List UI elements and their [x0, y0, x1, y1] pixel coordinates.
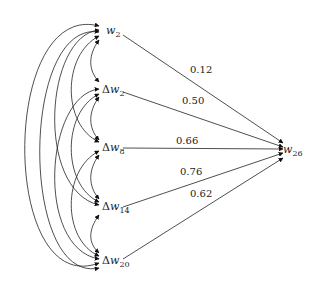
- node-prefix: Δ: [102, 141, 110, 154]
- edge-dw8-w26: [123, 148, 283, 149]
- node-sub: 20: [119, 260, 129, 269]
- weight-label-dw2: 0.50: [182, 95, 204, 106]
- node-w2: w2: [106, 24, 121, 39]
- node-var: w: [110, 254, 119, 267]
- node-sub: 14: [119, 206, 129, 215]
- graph-canvas: [0, 0, 313, 295]
- arc-w2-dw20-inner: [40, 32, 99, 269]
- node-prefix: Δ: [102, 83, 110, 96]
- node-dw14: Δw14: [102, 200, 130, 215]
- node-var: w: [110, 200, 119, 213]
- node-dw20: Δw20: [102, 254, 130, 269]
- node-w26: w26: [283, 143, 303, 158]
- node-prefix: Δ: [102, 254, 110, 267]
- edge-w2-w26: [123, 35, 283, 143]
- node-dw8: Δw8: [102, 141, 124, 156]
- arc-dw2-dw14: [71, 94, 99, 202]
- node-sub: 2: [115, 30, 120, 39]
- node-var: w: [106, 24, 115, 37]
- arc-w2-dw8: [71, 36, 99, 142]
- node-sub: 26: [292, 149, 302, 158]
- node-prefix: Δ: [102, 200, 110, 213]
- weight-label-dw14: 0.76: [180, 166, 202, 177]
- arc-dw8-dw14: [91, 155, 99, 199]
- arc-w2-dw20: [25, 24, 99, 266]
- arc-dw2-dw8: [91, 97, 99, 140]
- arc-w2-dw2: [91, 40, 99, 82]
- weight-label-w2: 0.12: [190, 64, 212, 75]
- node-var: w: [283, 143, 292, 156]
- node-var: w: [110, 141, 119, 154]
- weight-label-dw8: 0.66: [176, 135, 198, 146]
- arc-dw14-dw20: [91, 215, 99, 253]
- edge-dw20-w26: [123, 158, 283, 259]
- node-sub: 8: [119, 147, 124, 156]
- node-dw2: Δw2: [102, 83, 124, 98]
- node-var: w: [110, 83, 119, 96]
- node-sub: 2: [119, 89, 124, 98]
- weight-label-dw20: 0.62: [190, 188, 212, 199]
